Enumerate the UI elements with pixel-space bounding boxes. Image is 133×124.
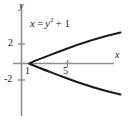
y-tick-label-minus-2: -2 [4, 74, 12, 84]
parabola-figure: y x 2 -2 1 5 x=y2+ 1 [0, 0, 133, 124]
equation-annotation: x=y2+ 1 [30, 18, 70, 29]
x-tick-label-1: 1 [25, 66, 30, 76]
equation-equals: = [37, 17, 43, 29]
equation-lhs: x [30, 17, 35, 29]
equation-exponent: 2 [50, 16, 54, 24]
x-axis-label: x [115, 50, 119, 60]
y-tick-label-2: 2 [8, 38, 13, 48]
equation-constant: + 1 [56, 17, 70, 29]
y-axis-label: y [19, 1, 23, 11]
x-tick-label-5: 5 [63, 66, 68, 76]
